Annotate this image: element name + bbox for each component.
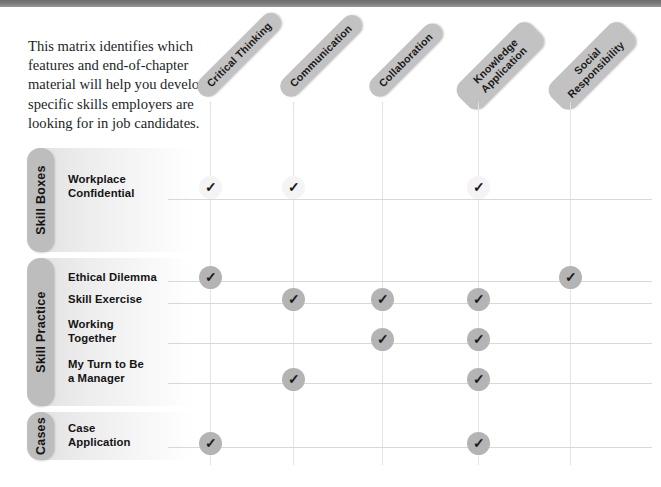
check-icon: ✓ xyxy=(377,292,389,306)
top-rule-divider xyxy=(0,0,661,7)
group-pill-label: Cases xyxy=(34,417,48,455)
check-icon: ✓ xyxy=(205,180,217,194)
gridline-vertical-knowledge-application xyxy=(478,105,479,465)
row-label-case-application: Case Application xyxy=(68,421,131,450)
group-pill-cases: Cases xyxy=(27,412,54,460)
skills-matrix-figure: This matrix identifies which features an… xyxy=(0,0,661,487)
checkmark-my-turn-to-be-a-manager-communication: ✓ xyxy=(282,368,305,391)
checkmark-ethical-dilemma-social-responsibility: ✓ xyxy=(559,266,582,289)
gridline-horizontal-workplace-confidential xyxy=(168,199,652,200)
row-label-ethical-dilemma: Ethical Dilemma xyxy=(68,270,157,284)
gridline-horizontal-working-together xyxy=(168,343,652,344)
check-icon: ✓ xyxy=(288,180,300,194)
column-header-communication: Communication xyxy=(276,11,367,102)
gridline-horizontal-my-turn-to-be-a-manager xyxy=(168,383,652,384)
column-header-collaboration: Collaboration xyxy=(365,19,447,101)
group-pill-label: Skill Boxes xyxy=(34,165,48,234)
row-label-workplace-confidential: Workplace Confidential xyxy=(68,172,134,201)
check-icon: ✓ xyxy=(473,180,485,194)
check-icon: ✓ xyxy=(565,270,577,284)
column-header-line: Communication xyxy=(287,22,354,89)
checkmark-workplace-confidential-knowledge-application: ✓ xyxy=(467,176,490,199)
checkmark-skill-exercise-communication: ✓ xyxy=(282,288,305,311)
checkmark-working-together-collaboration: ✓ xyxy=(371,328,394,351)
check-icon: ✓ xyxy=(473,372,485,386)
check-icon: ✓ xyxy=(473,332,485,346)
checkmark-workplace-confidential-critical-thinking: ✓ xyxy=(199,176,222,199)
check-icon: ✓ xyxy=(205,270,217,284)
check-icon: ✓ xyxy=(377,332,389,346)
group-pill-skill-boxes: Skill Boxes xyxy=(27,148,54,252)
checkmark-working-together-knowledge-application: ✓ xyxy=(467,328,490,351)
check-icon: ✓ xyxy=(473,436,485,450)
gridline-vertical-collaboration xyxy=(382,105,383,465)
gridline-vertical-communication xyxy=(293,105,294,465)
column-header-knowledge-application: KnowledgeApplication xyxy=(452,18,548,114)
checkmark-ethical-dilemma-critical-thinking: ✓ xyxy=(199,266,222,289)
group-pill-label: Skill Practice xyxy=(34,291,48,372)
check-icon: ✓ xyxy=(205,436,217,450)
gridline-horizontal-case-application xyxy=(168,447,652,448)
column-header-social-responsibility: SocialResponsibility xyxy=(544,18,640,114)
checkmark-workplace-confidential-communication: ✓ xyxy=(282,176,305,199)
checkmark-case-application-knowledge-application: ✓ xyxy=(467,432,490,455)
checkmark-case-application-critical-thinking: ✓ xyxy=(199,432,222,455)
row-label-my-turn-to-be-a-manager: My Turn to Be a Manager xyxy=(68,357,144,386)
checkmark-my-turn-to-be-a-manager-knowledge-application: ✓ xyxy=(467,368,490,391)
group-pill-skill-practice: Skill Practice xyxy=(27,258,54,406)
gridline-horizontal-skill-exercise xyxy=(168,303,652,304)
row-label-working-together: Working Together xyxy=(68,317,116,346)
check-icon: ✓ xyxy=(288,372,300,386)
check-icon: ✓ xyxy=(288,292,300,306)
intro-paragraph: This matrix identifies which features an… xyxy=(28,37,223,134)
check-icon: ✓ xyxy=(473,292,485,306)
checkmark-skill-exercise-knowledge-application: ✓ xyxy=(467,288,490,311)
row-label-skill-exercise: Skill Exercise xyxy=(68,292,142,306)
column-header-line: Collaboration xyxy=(376,30,435,89)
checkmark-skill-exercise-collaboration: ✓ xyxy=(371,288,394,311)
